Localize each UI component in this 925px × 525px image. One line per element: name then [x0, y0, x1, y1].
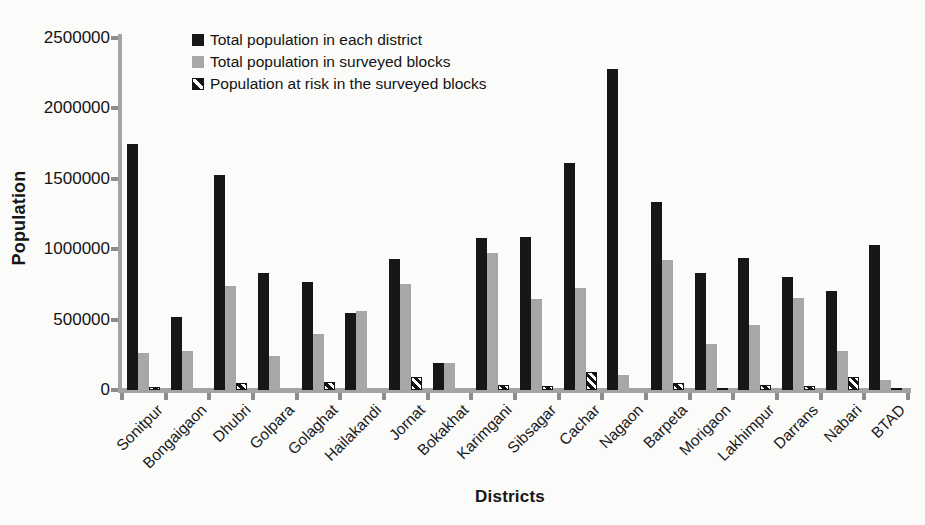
x-tick-label-darrans: Darrans	[770, 401, 822, 453]
bar-sonitpur-series3	[149, 387, 160, 390]
legend-entry-surveyed-blocks: Total population in surveyed blocks	[192, 51, 487, 73]
y-tick-label: 2500000	[18, 29, 110, 47]
bar-nabari-series3	[848, 377, 859, 390]
y-tick-mark	[111, 247, 118, 251]
bar-jornat-series1	[389, 259, 400, 390]
bar-sibsagar-series3	[542, 386, 553, 390]
x-tick-mark	[382, 393, 386, 400]
bar-karimgani-series1	[476, 238, 487, 390]
bar-chart: Population 05000001000000150000020000002…	[0, 0, 925, 525]
x-tick-label-cachar: Cachar	[555, 401, 603, 449]
bar-barpeta-series1	[651, 202, 662, 390]
bar-dhubri-series1	[214, 175, 225, 390]
legend-label: Total population in each district	[210, 31, 422, 49]
bar-sibsagar-series2	[531, 299, 542, 390]
x-tick-mark	[862, 393, 866, 400]
y-tick-mark	[111, 106, 118, 110]
bar-bongaigaon-series1	[171, 317, 182, 390]
bar-karimgani-series3	[498, 385, 509, 390]
bar-barpeta-series3	[673, 383, 684, 390]
bar-golpara-series1	[258, 273, 269, 390]
bar-cachar-series2	[575, 288, 586, 390]
x-tick-mark	[469, 393, 473, 400]
y-tick-label: 500000	[18, 311, 110, 329]
bar-darrans-series2	[793, 298, 804, 390]
bar-cachar-series1	[564, 163, 575, 390]
bar-jornat-series3	[411, 377, 422, 390]
bar-nabari-series1	[826, 291, 837, 390]
x-tick-mark	[557, 393, 561, 400]
y-tick-mark	[111, 177, 118, 181]
bar-morigaon-series1	[695, 273, 706, 390]
x-tick-mark	[600, 393, 604, 400]
x-tick-mark	[731, 393, 735, 400]
y-tick-mark	[111, 36, 118, 40]
bar-bokakhat-series2	[444, 363, 455, 390]
bar-dhubri-series2	[225, 286, 236, 390]
x-tick-mark	[775, 393, 779, 400]
bar-sonitpur-series1	[127, 144, 138, 390]
x-tick-mark	[295, 393, 299, 400]
bar-lakhimpur-series3	[760, 385, 771, 390]
bar-dhubri-series3	[236, 383, 247, 390]
legend-marker-gray-square	[192, 56, 204, 68]
x-tick-mark	[426, 393, 430, 400]
bar-nagaon-series2	[618, 375, 629, 390]
x-tick-mark	[164, 393, 168, 400]
y-tick-label: 1000000	[18, 240, 110, 258]
bar-hailakandi-series1	[345, 313, 356, 390]
bar-morigaon-series3	[717, 388, 728, 390]
y-tick-label: 2000000	[18, 99, 110, 117]
y-axis-line	[118, 34, 122, 392]
y-tick-mark	[111, 318, 118, 322]
y-tick-label: 1500000	[18, 170, 110, 188]
x-tick-label-btad: BTAD	[868, 401, 909, 442]
y-tick-label: 0	[18, 381, 110, 399]
x-tick-mark	[120, 393, 124, 400]
x-tick-mark	[251, 393, 255, 400]
legend: Total population in each district Total …	[192, 29, 487, 95]
legend-label: Population at risk in the surveyed block…	[210, 75, 487, 93]
bar-cachar-series3	[586, 372, 597, 390]
bar-darrans-series1	[782, 277, 793, 390]
bar-btad-series2	[880, 380, 891, 390]
y-tick-mark	[111, 388, 118, 392]
bar-morigaon-series2	[706, 344, 717, 390]
bar-golpara-series2	[269, 356, 280, 390]
x-axis-title: Districts	[420, 487, 600, 507]
bar-karimgani-series2	[487, 253, 498, 390]
legend-marker-black-square	[192, 34, 204, 46]
legend-entry-at-risk: Population at risk in the surveyed block…	[192, 73, 487, 95]
x-tick-label-nagaon: Nagaon	[596, 401, 647, 452]
bar-sonitpur-series2	[138, 353, 149, 390]
x-tick-label-nabari: Nabari	[820, 401, 865, 446]
bar-lakhimpur-series1	[738, 258, 749, 390]
legend-marker-hatched-square	[192, 78, 204, 90]
bar-barpeta-series2	[662, 260, 673, 390]
x-tick-mark	[819, 393, 823, 400]
legend-entry-total-district: Total population in each district	[192, 29, 487, 51]
x-tick-mark	[513, 393, 517, 400]
bar-nabari-series2	[837, 351, 848, 390]
x-tick-mark	[906, 393, 910, 400]
bar-sibsagar-series1	[520, 237, 531, 390]
x-tick-mark	[207, 393, 211, 400]
bar-golaghat-series2	[313, 334, 324, 390]
bar-lakhimpur-series2	[749, 325, 760, 390]
bar-golaghat-series1	[302, 282, 313, 390]
bar-bokakhat-series1	[433, 363, 444, 390]
x-tick-mark	[338, 393, 342, 400]
bar-nagaon-series1	[607, 69, 618, 390]
bar-hailakandi-series2	[356, 311, 367, 390]
bar-bongaigaon-series2	[182, 351, 193, 390]
bar-btad-series3	[891, 388, 902, 390]
bar-golaghat-series3	[324, 382, 335, 390]
legend-label: Total population in surveyed blocks	[210, 53, 450, 71]
x-tick-mark	[688, 393, 692, 400]
y-axis-title: Population	[6, 123, 32, 313]
bar-btad-series1	[869, 245, 880, 390]
bar-darrans-series3	[804, 386, 815, 390]
bar-jornat-series2	[400, 284, 411, 390]
x-tick-mark	[644, 393, 648, 400]
